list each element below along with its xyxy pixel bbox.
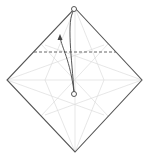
origami-fold-diagram	[0, 0, 143, 160]
crease-lines	[7, 8, 142, 152]
center-target-circle	[72, 92, 77, 97]
top-corner-circle	[72, 7, 77, 12]
arrowhead-icon	[58, 34, 63, 40]
